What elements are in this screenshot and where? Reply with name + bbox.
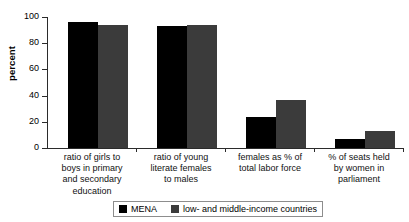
- plot-area: 100 80 60 40 20 0: [47, 17, 404, 148]
- category-label-0-line1: ratio of girls to: [42, 152, 142, 163]
- legend-swatch-lmic-icon: [171, 205, 179, 213]
- legend-label-lmic: low- and middle-income countries: [183, 204, 317, 215]
- bar-chart: percent 100 80 60 40 20 0: [0, 0, 409, 222]
- category-label-0-line4: education: [42, 186, 142, 197]
- legend: MENA low- and middle-income countries: [113, 201, 323, 217]
- y-tick-80: 80: [42, 43, 47, 44]
- y-tick-label-0: 0: [34, 141, 39, 154]
- y-tick-label-80: 80: [29, 36, 39, 49]
- y-tick-100: 100: [42, 17, 47, 18]
- bar-lmic-1: [187, 25, 217, 148]
- bar-lmic-3: [365, 131, 395, 148]
- bar-mena-2: [246, 117, 276, 148]
- bar-mena-0: [68, 22, 98, 148]
- bar-mena-1: [157, 26, 187, 148]
- legend-swatch-mena-icon: [119, 205, 127, 213]
- y-tick-0: 0: [42, 148, 47, 149]
- category-label-2-line1: females as % of: [220, 152, 320, 163]
- y-tick-20: 20: [42, 122, 47, 123]
- legend-entry-lmic: low- and middle-income countries: [171, 204, 317, 215]
- y-axis-line: [47, 17, 48, 148]
- category-label-1-line3: to males: [131, 174, 231, 185]
- category-label-2-line2: total labor force: [220, 163, 320, 174]
- category-label-1-line1: ratio of young: [131, 152, 231, 163]
- y-tick-40: 40: [42, 96, 47, 97]
- category-label-0-line3: and secondary: [42, 174, 142, 185]
- category-label-0-line2: boys in primary: [42, 163, 142, 174]
- category-label-3-line2: by women in: [309, 163, 409, 174]
- y-tick-label-20: 20: [29, 115, 39, 128]
- category-label-2: females as % of total labor force: [220, 152, 320, 174]
- category-label-1-line2: literate females: [131, 163, 231, 174]
- y-tick-label-40: 40: [29, 89, 39, 102]
- bar-lmic-2: [276, 100, 306, 149]
- y-tick-label-100: 100: [24, 10, 39, 23]
- legend-entry-mena: MENA: [119, 204, 157, 215]
- bar-mena-3: [335, 139, 365, 148]
- category-label-3-line3: parliament: [309, 174, 409, 185]
- category-label-0: ratio of girls to boys in primary and se…: [42, 152, 142, 197]
- y-axis-title: percent: [6, 29, 17, 99]
- category-labels: ratio of girls to boys in primary and se…: [47, 152, 404, 198]
- bar-lmic-0: [98, 25, 128, 148]
- category-label-3: % of seats held by women in parliament: [309, 152, 409, 186]
- y-tick-60: 60: [42, 69, 47, 70]
- category-label-3-line1: % of seats held: [309, 152, 409, 163]
- legend-label-mena: MENA: [131, 204, 157, 215]
- y-tick-label-60: 60: [29, 62, 39, 75]
- category-label-1: ratio of young literate females to males: [131, 152, 231, 186]
